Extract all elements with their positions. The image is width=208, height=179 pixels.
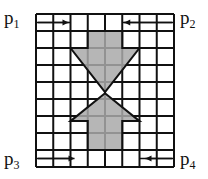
- label-p2: p2: [180, 7, 196, 31]
- p2-arrow-head-icon: [124, 20, 130, 26]
- up-arrow-icon: [71, 93, 140, 150]
- label-p3: p3: [4, 148, 20, 172]
- p1-arrow-head-icon: [63, 20, 69, 26]
- down-arrow-icon: [71, 31, 140, 92]
- label-p1: p1: [4, 7, 20, 31]
- p4-arrow-head-icon: [146, 156, 152, 162]
- label-p4: p4: [180, 148, 196, 172]
- grid-diagram: p1 p2 p3 p4: [0, 0, 208, 179]
